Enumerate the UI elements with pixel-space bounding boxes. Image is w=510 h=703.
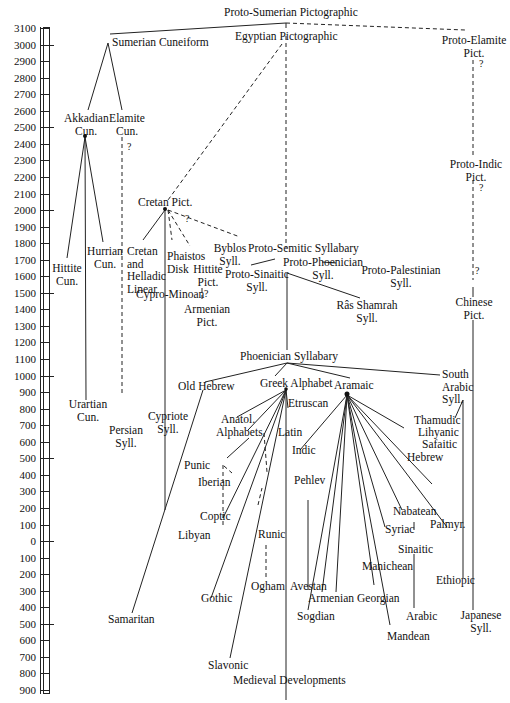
label-line: Urartian	[68, 398, 108, 411]
node-hebrew: Hebrew	[407, 451, 443, 464]
node-medieval: Medieval Developments	[233, 674, 346, 687]
label-line: Pict.	[450, 309, 498, 322]
node-proto-semitic: Proto-Semitic Syllabary	[248, 242, 359, 255]
node-japanese: JapaneseSyll.	[456, 609, 506, 634]
label-line: Anatol.	[216, 413, 260, 426]
question-mark: ?	[479, 182, 483, 193]
node-ogham: Ogham	[251, 580, 285, 593]
question-mark: ?	[204, 288, 208, 299]
node-proto-indic: Proto-IndicPict.	[446, 158, 506, 183]
node-phoenician: Phoenician Syllabary	[240, 350, 338, 363]
node-iberian: Iberian	[198, 476, 231, 489]
label-line: Cun.	[50, 275, 84, 288]
node-proto-sumerian: Proto-Sumerian Pictographic	[224, 6, 358, 19]
label-line: Persian	[107, 424, 145, 437]
node-ras-shamrah: Râs ShamrahSyll.	[335, 299, 399, 324]
label-line: Chinese	[450, 296, 498, 309]
node-elamite: ElamiteCun.	[109, 112, 145, 137]
node-gothic: Gothic	[201, 592, 232, 605]
node-aramaic: Aramaic	[334, 379, 374, 392]
node-latin: Latin	[278, 426, 302, 439]
question-mark: ?	[185, 213, 189, 224]
node-punic: Punic	[184, 459, 210, 472]
label-line: Proto-Sinaitic	[222, 268, 292, 281]
question-mark: ?	[127, 141, 131, 152]
node-greek: Greek Alphabet	[260, 377, 333, 390]
label-line: Pict.	[446, 171, 506, 184]
question-mark: ?	[479, 58, 483, 69]
node-byblos: ByblosSyll.	[212, 242, 248, 267]
label-line: Hittite	[50, 262, 84, 275]
label-line: Cun.	[68, 411, 108, 424]
node-libyan: Libyan	[178, 529, 211, 542]
node-urartian: UrartianCun.	[68, 398, 108, 423]
node-akkadian: AkkadianCun.	[64, 112, 108, 137]
label-line: Japanese	[456, 609, 506, 622]
label-line: Proto-Palestinian	[356, 264, 446, 277]
label-line: Cun.	[109, 125, 145, 138]
label-line: Syll.	[335, 312, 399, 325]
node-sinaitic: Sinaitic	[398, 543, 433, 556]
node-georgian: Georgian	[357, 592, 400, 605]
node-etruscan: Etruscan	[288, 397, 328, 410]
label-line: Pict.	[180, 316, 234, 329]
node-old-hebrew: Old Hebrew	[178, 380, 235, 393]
label-line: Râs Shamrah	[335, 299, 399, 312]
label-line: and	[127, 258, 166, 271]
node-cretan-pict: Cretan Pict.	[138, 196, 192, 209]
node-cypriote: CyprioteSyll.	[145, 410, 191, 435]
node-indic: Indic	[292, 444, 316, 457]
label-line: Cun.	[64, 125, 108, 138]
node-mandean: Mandean	[387, 630, 430, 643]
node-slavonic: Slavonic	[208, 659, 248, 672]
node-egyptian-pict: Egyptian Pictographic	[235, 30, 338, 43]
label-line: Phaistos	[167, 250, 205, 263]
label-line: Cun.	[86, 258, 124, 271]
label-line: Cretan	[127, 245, 166, 258]
node-palmyr: Palmyr.	[430, 518, 465, 531]
node-avestan: Avestan	[290, 580, 327, 593]
node-persian: PersianSyll.	[107, 424, 145, 449]
node-coptic: Coptic	[200, 510, 231, 523]
label-line: Syll.	[456, 622, 506, 635]
label-line: Proto-Indic	[446, 158, 506, 171]
question-mark: ?	[475, 265, 479, 276]
label-line: Helladic	[127, 270, 166, 283]
label-line: Syll.	[107, 437, 145, 450]
label-line: Syll.	[212, 255, 248, 268]
node-proto-elamite: Proto-ElamitePict.	[440, 34, 508, 59]
label-line: Elamite	[109, 112, 145, 125]
node-anatolian: Anatol.Alphabets	[216, 413, 260, 438]
node-armenian: Armenian	[308, 592, 354, 605]
label-line: Proto-Elamite	[440, 34, 508, 47]
node-south-arabic: SouthArabicSyll.	[442, 368, 473, 406]
node-syriac: Syriac	[385, 523, 414, 536]
label-line: Syll.	[145, 423, 191, 436]
node-armenian-pict: ArmenianPict.	[180, 303, 234, 328]
label-line: Hurrian	[86, 245, 124, 258]
label-line: Syll.	[442, 393, 473, 406]
node-hurrian: HurrianCun.	[86, 245, 124, 270]
node-thamudic: Thamudic	[414, 414, 461, 427]
node-runic: Runic	[258, 528, 285, 541]
node-proto-sinaitic: Proto-SinaiticSyll.	[222, 268, 292, 293]
node-sogdian: Sogdian	[297, 610, 335, 623]
label-line: Arabic	[442, 381, 473, 394]
label-line: Pict.	[190, 276, 226, 289]
node-safaitic: Safaitic	[422, 438, 457, 451]
label-line: Akkadian	[64, 112, 108, 125]
label-line: South	[442, 368, 473, 381]
node-pehlev: Pehlev	[294, 474, 325, 487]
node-lihyanic: Lihyanic	[418, 426, 459, 439]
node-hittite-cun: HittiteCun.	[50, 262, 84, 287]
label-line: Syll.	[356, 277, 446, 290]
node-cypro-minoan: Cypro-Minoan	[136, 288, 204, 301]
node-chinese-pict: ChinesePict.	[450, 296, 498, 321]
node-nabatean: Nabatean	[393, 505, 436, 518]
label-line: Armenian	[180, 303, 234, 316]
node-samaritan: Samaritan	[108, 613, 155, 626]
node-arabic: Arabic	[406, 610, 437, 623]
label-line: Cypriote	[145, 410, 191, 423]
label-line: Alphabets	[216, 426, 260, 439]
node-ethiopic: Ethiopic	[436, 574, 475, 587]
